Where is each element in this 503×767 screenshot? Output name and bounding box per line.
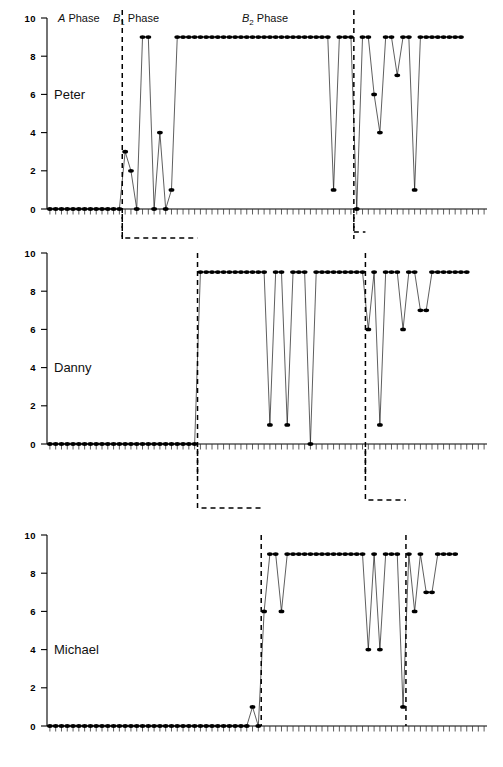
data-point	[423, 308, 429, 312]
y-tick-label: 4	[30, 127, 36, 138]
data-point	[331, 552, 337, 556]
data-point	[377, 131, 383, 135]
data-point	[296, 270, 302, 274]
data-point	[174, 724, 180, 728]
data-point	[313, 35, 319, 39]
data-point	[116, 724, 122, 728]
data-point	[446, 552, 452, 556]
panel-label-peter: Peter	[54, 87, 86, 102]
phase-label-a: A Phase	[57, 12, 100, 24]
data-point	[99, 724, 105, 728]
data-point	[360, 35, 366, 39]
data-point	[70, 442, 76, 446]
data-point	[192, 35, 198, 39]
data-point	[157, 724, 163, 728]
data-point	[452, 270, 458, 274]
data-point	[464, 270, 470, 274]
series-line-michael	[50, 554, 455, 726]
data-point	[47, 724, 53, 728]
data-point	[296, 35, 302, 39]
data-point	[151, 724, 157, 728]
data-point	[59, 207, 65, 211]
data-point	[354, 207, 360, 211]
panel-danny: 10 8 6 4 2 0 Danny	[24, 248, 487, 475]
data-point	[400, 35, 406, 39]
data-point	[290, 35, 296, 39]
data-point	[192, 724, 198, 728]
data-point	[319, 552, 325, 556]
phase-lines-danny	[198, 253, 366, 474]
data-point	[348, 35, 354, 39]
data-point	[82, 442, 88, 446]
data-point	[446, 35, 452, 39]
data-point	[261, 35, 267, 39]
data-point	[308, 552, 314, 556]
data-point	[116, 442, 122, 446]
data-point	[261, 610, 267, 614]
data-point	[342, 35, 348, 39]
data-point	[250, 705, 256, 709]
data-point	[348, 270, 354, 274]
data-point	[406, 270, 412, 274]
data-point	[325, 552, 331, 556]
data-point	[82, 724, 88, 728]
data-point	[169, 724, 175, 728]
data-point	[215, 35, 221, 39]
data-point	[122, 724, 128, 728]
y-tick-labels-michael: 10 8 6 4 2 0	[24, 530, 36, 732]
data-point	[70, 207, 76, 211]
y-tick-label: 10	[24, 13, 36, 24]
data-point	[151, 442, 157, 446]
data-point	[365, 35, 371, 39]
data-point	[377, 648, 383, 652]
data-point	[209, 35, 215, 39]
data-point	[458, 35, 464, 39]
data-point	[157, 131, 163, 135]
y-ticks-michael	[41, 535, 47, 726]
y-ticks-danny	[41, 253, 47, 444]
data-point	[99, 207, 105, 211]
data-point	[88, 724, 94, 728]
data-point	[313, 552, 319, 556]
data-point	[342, 270, 348, 274]
phase-label-b2: B2 Phase	[242, 12, 288, 27]
y-tick-labels-danny: 10 8 6 4 2 0	[24, 248, 36, 450]
data-point	[140, 442, 146, 446]
data-point	[336, 552, 342, 556]
data-point	[435, 270, 441, 274]
data-point	[128, 442, 134, 446]
data-point	[215, 724, 221, 728]
data-point	[128, 169, 134, 173]
data-point	[284, 552, 290, 556]
series-markers-peter	[47, 35, 464, 211]
data-point	[261, 270, 267, 274]
panel-label-danny: Danny	[54, 360, 92, 375]
data-point	[64, 724, 70, 728]
data-point	[371, 552, 377, 556]
y-tick-label: 2	[30, 400, 36, 411]
data-point	[400, 328, 406, 332]
data-point	[360, 270, 366, 274]
y-tick-label: 6	[30, 606, 36, 617]
data-point	[93, 724, 99, 728]
phase-connector	[365, 449, 406, 500]
data-point	[279, 610, 285, 614]
data-point	[221, 724, 227, 728]
data-point	[59, 724, 65, 728]
data-point	[244, 270, 250, 274]
panel-label-michael: Michael	[54, 642, 99, 657]
data-point	[198, 35, 204, 39]
data-point	[128, 724, 134, 728]
y-tick-label: 2	[30, 165, 36, 176]
data-point	[163, 724, 169, 728]
y-tick-label: 6	[30, 324, 36, 335]
data-point	[412, 270, 418, 274]
phase-connectors	[122, 214, 406, 508]
data-point	[394, 552, 400, 556]
data-point	[290, 552, 296, 556]
data-point	[273, 35, 279, 39]
data-point	[47, 207, 53, 211]
data-point	[423, 590, 429, 594]
data-point	[389, 270, 395, 274]
data-point	[336, 35, 342, 39]
